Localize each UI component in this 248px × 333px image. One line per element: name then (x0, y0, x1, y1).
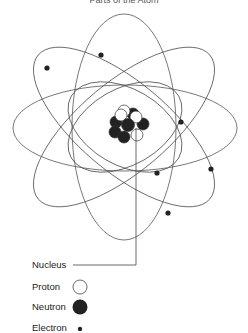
nucleus-pointer-line (73, 128, 136, 265)
electron-icon (208, 166, 213, 171)
legend-neutron-label: Neutron (32, 301, 66, 312)
proton-icon (131, 129, 143, 141)
legend-nucleus-label: Nucleus (32, 259, 66, 270)
electron-icon (178, 119, 183, 124)
neutron-icon (122, 119, 135, 132)
electron-icon (98, 52, 103, 57)
electron-icon (44, 65, 49, 70)
legend-neutron-icon (73, 300, 88, 315)
electron-icon (165, 210, 170, 215)
electron-icon (154, 170, 159, 175)
legend-electron-label: Electron (32, 322, 67, 333)
legend-proton-icon (73, 280, 87, 294)
nucleus (109, 105, 149, 143)
legend-proton-label: Proton (32, 281, 60, 292)
neutron-icon (118, 131, 130, 143)
legend-electron-icon (78, 327, 82, 331)
